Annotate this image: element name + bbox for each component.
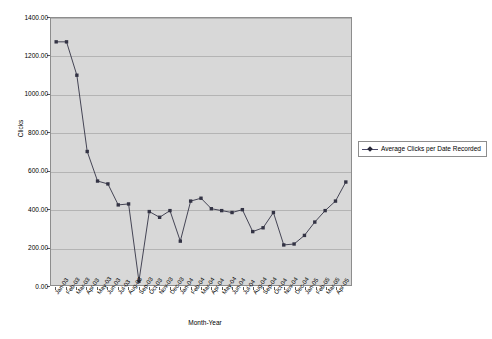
data-point-marker — [96, 179, 99, 182]
data-point-marker — [65, 40, 68, 43]
data-point-marker — [282, 243, 285, 246]
data-point-marker — [86, 150, 89, 153]
data-point-marker — [251, 230, 254, 233]
data-point-marker — [220, 209, 223, 212]
data-point-marker — [127, 202, 130, 205]
series-line — [56, 42, 346, 281]
y-tick-label: 200.00 — [28, 244, 48, 251]
y-tick-label: 600.00 — [28, 167, 48, 174]
y-tick-label: 1400.00 — [25, 14, 49, 21]
data-point-marker — [199, 197, 202, 200]
series-layer — [51, 18, 351, 285]
y-tick-label: 1200.00 — [25, 52, 49, 59]
data-point-marker — [75, 74, 78, 77]
data-point-marker — [54, 40, 57, 43]
data-point-marker — [117, 203, 120, 206]
line-chart: 0.00200.00400.00600.00800.001000.001200.… — [0, 0, 492, 339]
data-point-marker — [261, 226, 264, 229]
data-point-marker — [323, 209, 326, 212]
data-point-marker — [210, 207, 213, 210]
y-tick-label: 0.00 — [35, 283, 48, 290]
data-point-marker — [334, 199, 337, 202]
plot-area — [50, 17, 352, 286]
data-point-marker — [168, 209, 171, 212]
data-point-marker — [303, 234, 306, 237]
data-point-marker — [344, 180, 347, 183]
data-point-marker — [230, 211, 233, 214]
data-point-marker — [158, 216, 161, 219]
y-tick-label: 400.00 — [28, 206, 48, 213]
data-point-marker — [241, 208, 244, 211]
y-tick-label: 1000.00 — [25, 90, 49, 97]
data-point-marker — [272, 211, 275, 214]
data-point-marker — [292, 242, 295, 245]
legend-label: Average Clicks per Date Recorded — [381, 145, 481, 153]
y-axis-title: Clicks — [17, 99, 24, 159]
x-axis-title: Month-Year — [150, 319, 260, 326]
data-point-marker — [313, 220, 316, 223]
data-point-marker — [148, 210, 151, 213]
y-tick-label: 800.00 — [28, 129, 48, 136]
legend-marker-icon — [362, 146, 378, 153]
data-point-marker — [179, 239, 182, 242]
data-point-marker — [189, 199, 192, 202]
chart-legend: Average Clicks per Date Recorded — [358, 141, 487, 157]
data-point-marker — [106, 182, 109, 185]
